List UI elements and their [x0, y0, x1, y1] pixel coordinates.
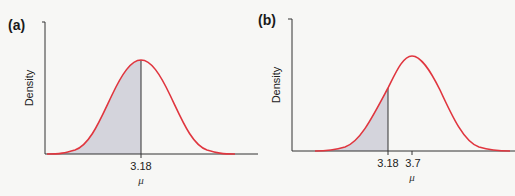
- panel-b-shaded-area: [315, 88, 388, 151]
- panel-a-x-label: μ: [137, 174, 144, 186]
- panel-b: (b) Density 3.18 3.7 μ: [258, 12, 515, 183]
- panel-b-y-label: Density: [270, 66, 282, 103]
- figure: (a) Density 3.18 μ (b) Density 3.18 3.7 …: [0, 0, 515, 196]
- panel-b-x-label: μ: [408, 171, 415, 183]
- panel-b-label: (b): [258, 12, 276, 28]
- panel-a-y-axis: [42, 22, 45, 154]
- panel-b-density-curve: [315, 56, 510, 151]
- panel-a: (a) Density 3.18 μ: [8, 17, 258, 186]
- panel-b-y-axis: [288, 19, 292, 151]
- panel-b-x-tick-37: 3.7: [405, 157, 420, 169]
- panel-a-shaded-area: [47, 60, 141, 154]
- panel-a-x-tick: 3.18: [130, 160, 151, 172]
- panel-a-y-label: Density: [23, 69, 35, 106]
- panel-a-label: (a): [8, 17, 25, 33]
- panel-b-x-tick-318: 3.18: [377, 157, 398, 169]
